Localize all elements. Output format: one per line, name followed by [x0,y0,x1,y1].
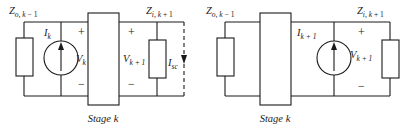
left-circuit: Zo, k − 1 Zi, k + 1 Ik + Vk − + Vk + 1 −… [9,5,187,124]
short-circuit-branch [181,22,187,96]
zo-body [16,38,33,76]
left-stage-box [88,13,119,105]
right-impedance-zo [217,22,234,96]
left-zi-label: Zi, k + 1 [146,5,173,19]
left-vk1-minus: − [128,77,135,91]
right-zi-label: Zi, k + 1 [357,5,384,19]
left-vk-minus: − [78,77,85,91]
right-vk1-minus: − [358,79,365,93]
right-impedance-zi [382,22,399,96]
right-current-source-ik1 [317,22,351,96]
left-impedance-zo [16,22,33,96]
left-impedance-zi [149,22,166,96]
right-vk1-plus: + [358,25,365,39]
left-vk-plus: + [78,25,85,39]
left-vk1-plus: + [128,25,135,39]
left-vk1-label: Vk + 1 [123,53,145,67]
right-vk1-label: Vk + 1 [350,49,372,63]
left-ik-label: Ik [43,27,52,41]
r-zi-body [382,40,399,78]
left-stage-label: Stage k [88,113,119,124]
right-stage-box [260,13,291,105]
isc-label: Isc [167,57,178,71]
r-zo-body [217,38,234,76]
left-zo-label: Zo, k − 1 [9,5,38,19]
right-stage-label: Stage k [260,113,291,124]
left-vk-label: Vk [76,53,86,67]
right-zo-label: Zo, k − 1 [206,5,235,19]
isc-arrow-head [181,55,187,64]
zi-body [149,40,166,78]
right-circuit: Zo, k − 1 Zi, k + 1 Ik + 1 + Vk + 1 − St… [206,5,399,124]
right-ik1-label: Ik + 1 [296,27,316,41]
circuit-figure: Zo, k − 1 Zi, k + 1 Ik + Vk − + Vk + 1 −… [0,0,412,130]
